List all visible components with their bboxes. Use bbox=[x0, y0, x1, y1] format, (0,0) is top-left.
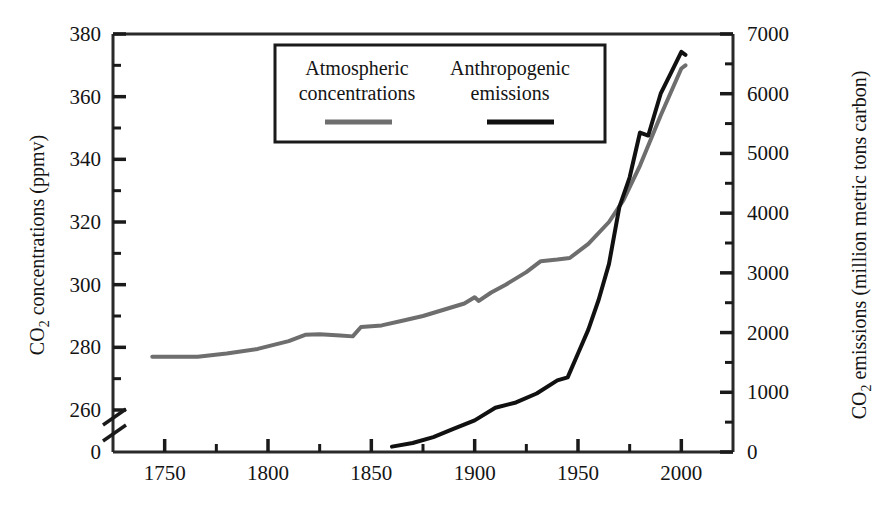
left-axis-title-prefix: CO bbox=[26, 327, 48, 355]
right-tick-label: 4000 bbox=[747, 201, 789, 225]
legend-entry-1-line2: emissions bbox=[471, 82, 550, 104]
svg-text:CO2 concentrations (ppmv): CO2 concentrations (ppmv) bbox=[26, 135, 52, 355]
chart-svg: 2602803003203403603800 01000200030004000… bbox=[0, 0, 887, 519]
right-tick-label: 7000 bbox=[747, 22, 789, 46]
right-axis-title-suffix: emissions (million metric tons carbon) bbox=[848, 71, 871, 385]
x-tick-label: 1850 bbox=[350, 461, 392, 485]
right-tick-label: 0 bbox=[747, 440, 758, 464]
x-tick-label: 1950 bbox=[557, 461, 599, 485]
left-tick-label-zero: 0 bbox=[91, 440, 102, 464]
left-tick-label: 320 bbox=[70, 210, 102, 234]
right-tick-label: 1000 bbox=[747, 380, 789, 404]
right-axis-title-prefix: CO bbox=[848, 392, 870, 420]
right-tick-label: 3000 bbox=[747, 261, 789, 285]
left-tick-label: 380 bbox=[70, 22, 102, 46]
right-axis-title: CO2 emissions (million metric tons carbo… bbox=[848, 71, 874, 420]
right-axis-title-sub: 2 bbox=[859, 385, 874, 392]
legend-entry-1-line1: Anthropogenic bbox=[450, 57, 570, 80]
legend: Atmospheric concentrations Anthropogenic… bbox=[275, 45, 605, 142]
left-tick-label: 300 bbox=[70, 273, 102, 297]
x-tick-label: 1800 bbox=[247, 461, 289, 485]
right-axis-ticks bbox=[720, 34, 733, 452]
x-tick-label: 1900 bbox=[454, 461, 496, 485]
left-axis-tick-labels: 2602803003203403603800 bbox=[70, 22, 102, 464]
left-tick-label: 260 bbox=[70, 398, 102, 422]
left-tick-label: 360 bbox=[70, 85, 102, 109]
left-axis-title-sub: 2 bbox=[37, 320, 52, 327]
left-axis-title-suffix: concentrations (ppmv) bbox=[26, 135, 49, 321]
x-tick-label: 2000 bbox=[660, 461, 702, 485]
right-axis-tick-labels: 01000200030004000500060007000 bbox=[747, 22, 789, 464]
right-tick-label: 2000 bbox=[747, 321, 789, 345]
right-tick-label: 5000 bbox=[747, 141, 789, 165]
x-tick-label: 1750 bbox=[144, 461, 186, 485]
left-axis-title: CO2 concentrations (ppmv) bbox=[26, 135, 52, 355]
left-axis-ticks bbox=[113, 34, 126, 410]
legend-entry-0-line1: Atmospheric bbox=[305, 57, 408, 80]
legend-entry-0-line2: concentrations bbox=[299, 82, 416, 104]
svg-text:CO2 emissions (million metric: CO2 emissions (million metric tons carbo… bbox=[848, 71, 874, 420]
right-tick-label: 6000 bbox=[747, 82, 789, 106]
left-tick-label: 340 bbox=[70, 147, 102, 171]
co2-chart: 2602803003203403603800 01000200030004000… bbox=[0, 0, 887, 519]
x-axis-tick-labels: 175018001850190019502000 bbox=[144, 461, 703, 485]
left-tick-label: 280 bbox=[70, 335, 102, 359]
